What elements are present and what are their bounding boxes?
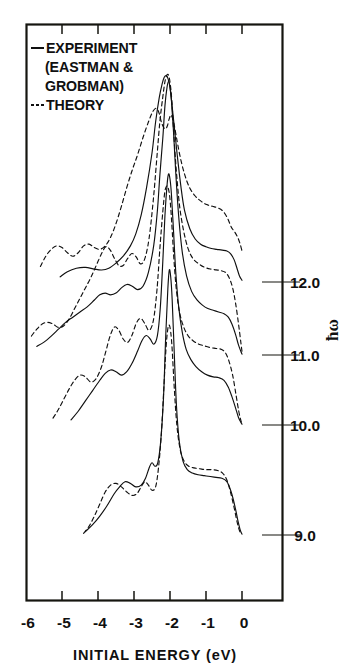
x-tick-label-minus1: -1 [201,614,215,631]
legend-label-source-line1: (EASTMAN & [45,58,133,76]
legend-label-source-line2: GROBMAN) [45,77,124,95]
x-axis-ticks-bottom [62,591,242,600]
legend-label-experiment: EXPERIMENT [46,39,137,57]
legend-item-source-line2: GROBMAN) [31,76,163,95]
legend-item-source-line1: (EASTMAN & [31,57,163,76]
photon-energy-label-12: 12.0 [290,274,320,291]
x-tick-label-minus6: -6 [21,614,35,631]
x-tick-label-minus5: -5 [57,614,71,631]
x-tick-label-minus3: -3 [129,614,143,631]
x-tick-label-minus2: -2 [165,614,179,631]
dashed-line-icon [31,99,44,111]
spectra-curves-layer [31,74,242,534]
x-tick-label-zero: 0 [240,614,249,631]
legend-item-theory: THEORY [31,95,163,114]
spectrum-theory-10-0ev [53,186,242,424]
spectrum-experiment-9-0ev [85,270,242,535]
photon-energy-label-11: 11.0 [290,347,319,364]
spectrum-experiment-11-0ev [37,82,242,355]
x-axis-ticks-top [62,25,242,34]
legend: EXPERIMENT (EASTMAN & GROBMAN) THEORY [31,38,163,114]
figure-root: -6 -5 -4 -3 -2 -1 0 INITIAL ENERGY (eV) … [0,0,357,672]
baseline-ticks [262,282,300,535]
x-tick-label-minus4: -4 [93,614,107,631]
y-axis-title: ħω [323,319,342,341]
photon-energy-label-10: 10.0 [290,417,320,434]
photon-energy-label-9: 9.0 [294,527,316,544]
x-axis-title: INITIAL ENERGY (eV) [73,647,237,663]
legend-label-theory: THEORY [46,96,104,114]
spectrum-theory-12-0ev [40,108,242,266]
legend-item-experiment: EXPERIMENT [31,38,163,57]
spectrum-theory-9-0ev [84,325,242,534]
solid-line-icon [31,42,44,54]
